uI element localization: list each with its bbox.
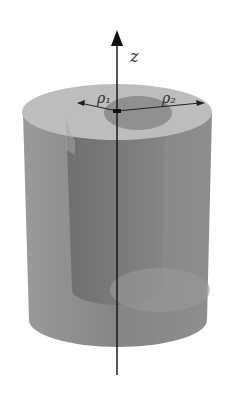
bottom-inner-face xyxy=(110,268,210,312)
origin-marker xyxy=(113,109,121,113)
cylinder-diagram: z ρ₁ ρ₂ xyxy=(0,0,237,395)
z-axis-label: z xyxy=(129,47,139,66)
rho1-label: ρ₁ xyxy=(96,90,111,106)
rho2-label: ρ₂ xyxy=(161,90,176,106)
z-axis-arrowhead-icon xyxy=(111,30,123,46)
